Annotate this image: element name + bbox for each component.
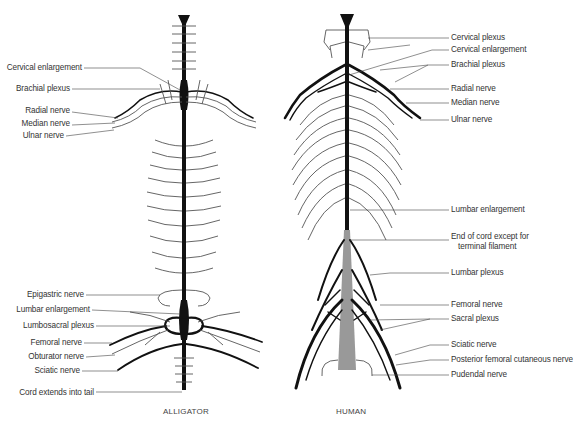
caption-human: HUMAN: [336, 407, 366, 416]
label-femoral-nerve: Femoral nerve: [451, 300, 502, 310]
label-posterior-femoral-cutaneous-nerve: Posterior femoral cutaneous nerve: [451, 355, 573, 365]
label-lumbosacral-plexus: Lumbosacral plexus: [23, 321, 94, 331]
label-end-of-cord: End of cord except for: [451, 232, 529, 242]
label-cervical-plexus: Cervical plexus: [451, 33, 505, 43]
label-radial-nerve: Radial nerve: [451, 84, 496, 94]
label-brachial-plexus: Brachial plexus: [16, 84, 70, 94]
label-sciatic-nerve: Sciatic nerve: [34, 366, 80, 376]
label-sacral-plexus: Sacral plexus: [451, 314, 499, 324]
label-pudendal-nerve: Pudendal nerve: [451, 370, 507, 380]
label-sciatic-nerve: Sciatic nerve: [451, 340, 497, 350]
label-median-nerve: Median nerve: [22, 119, 70, 129]
label-cervical-enlargement: Cervical enlargement: [7, 63, 82, 73]
label-obturator-nerve: Obturator nerve: [28, 352, 84, 362]
label-lumbar-plexus: Lumbar plexus: [451, 268, 503, 278]
alligator-figure: [66, 15, 262, 392]
caption-alligator: ALLIGATOR: [163, 407, 209, 416]
label-lumbar-enlargement: Lumbar enlargement: [16, 305, 90, 315]
label-lumbar-enlargement: Lumbar enlargement: [451, 205, 525, 215]
label-femoral-nerve: Femoral nerve: [31, 338, 82, 348]
label-cord-extends-into-tail: Cord extends into tail: [19, 388, 94, 398]
label-radial-nerve: Radial nerve: [25, 106, 70, 116]
label-ulnar-nerve: Ulnar nerve: [451, 115, 492, 125]
label-median-nerve: Median nerve: [451, 98, 499, 108]
label-ulnar-nerve: Ulnar nerve: [23, 131, 64, 141]
label-epigastric-nerve: Epigastric nerve: [27, 290, 84, 300]
label-brachial-plexus: Brachial plexus: [451, 60, 505, 70]
label-terminal-filament: terminal filament: [458, 242, 516, 252]
human-figure: [285, 14, 449, 388]
label-cervical-enlargement: Cervical enlargement: [451, 45, 526, 55]
